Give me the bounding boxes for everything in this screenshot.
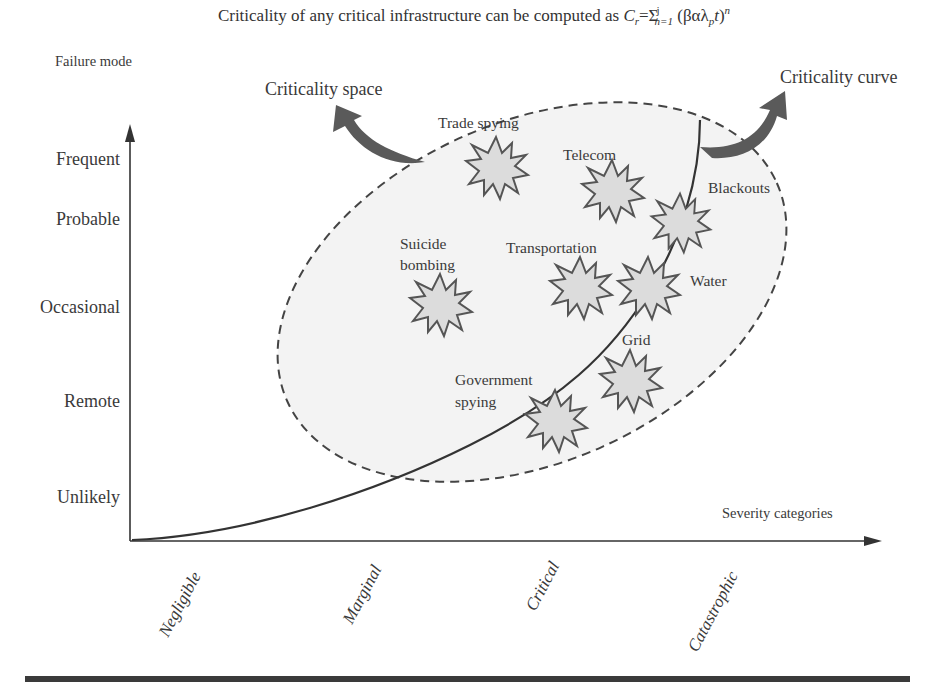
threat-label: Trade spying bbox=[438, 114, 519, 131]
y-level-probable: Probable bbox=[56, 209, 120, 229]
threat-label: Water bbox=[690, 272, 727, 289]
criticality-curve-label: Criticality curve bbox=[780, 67, 897, 87]
x-axis-title: Severity categories bbox=[722, 505, 833, 521]
threat-label-line2: bombing bbox=[400, 256, 455, 273]
y-level-frequent: Frequent bbox=[56, 149, 120, 169]
threat-label: Grid bbox=[622, 331, 651, 348]
bottom-rule bbox=[25, 676, 910, 682]
y-level-remote: Remote bbox=[64, 391, 120, 411]
criticality-space-arrow bbox=[333, 105, 425, 163]
y-level-unlikely: Unlikely bbox=[57, 487, 120, 507]
y-axis-arrowhead bbox=[125, 124, 135, 142]
threat-label: Suicide bbox=[400, 235, 447, 252]
y-level-occasional: Occasional bbox=[40, 297, 120, 317]
y-axis-title: Failure mode bbox=[55, 53, 132, 69]
x-level-catastrophic: Catastrophic bbox=[684, 568, 742, 655]
x-axis-arrowhead bbox=[864, 536, 882, 546]
threat-label: Telecom bbox=[563, 146, 616, 163]
criticality-diagram: Failure mode Severity categories Frequen… bbox=[0, 0, 948, 695]
x-level-critical: Critical bbox=[522, 558, 564, 614]
threat-label: Blackouts bbox=[708, 179, 770, 196]
threat-label: Government bbox=[455, 371, 533, 388]
x-level-negligible: Negligible bbox=[154, 568, 205, 641]
criticality-space-ellipse bbox=[218, 28, 846, 557]
threat-label-line2: spying bbox=[455, 393, 497, 410]
criticality-space-label: Criticality space bbox=[265, 79, 382, 99]
threat-label: Transportation bbox=[506, 239, 597, 256]
x-level-marginal: Marginal bbox=[338, 562, 385, 628]
